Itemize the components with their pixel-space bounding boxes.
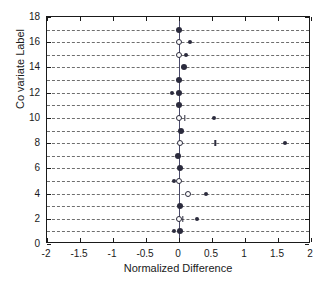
data-point-row7-filled	[175, 153, 181, 159]
y-tick-8	[305, 143, 309, 144]
y-tick-label-8: 8	[14, 137, 40, 148]
y-tick-label-10: 10	[14, 111, 40, 122]
data-point-row10-dot	[212, 116, 216, 120]
data-point-row13-filled	[176, 77, 182, 83]
y-tick-6	[47, 168, 51, 169]
data-point-row15-open	[176, 52, 182, 58]
x-tick-2	[311, 238, 312, 242]
data-point-row16-dot	[188, 40, 192, 44]
x-tick-label--1.5: -1.5	[70, 248, 87, 259]
data-point-row3-filled	[177, 203, 183, 209]
data-point-row11-filled	[176, 102, 182, 108]
x-tick-label-2: 2	[307, 248, 313, 259]
y-tick-16	[305, 42, 309, 43]
y-tick-label-2: 2	[14, 212, 40, 223]
x-tick--2	[47, 238, 48, 242]
y-tick-12	[305, 93, 309, 94]
data-point-row16-open	[176, 39, 182, 45]
x-tick-label--1: -1	[108, 248, 117, 259]
data-point-row9-filled	[178, 128, 184, 134]
y-tick-14	[47, 67, 51, 68]
data-point-row17-filled	[176, 27, 182, 33]
data-point-row6-filled	[177, 165, 183, 171]
x-tick--0.5	[146, 17, 147, 21]
y-tick-label-18: 18	[14, 11, 40, 22]
y-tick-0	[47, 244, 51, 245]
data-point-row1-filled	[177, 228, 183, 234]
data-point-row10-open	[176, 115, 182, 121]
x-tick-0	[179, 17, 180, 21]
y-tick-16	[47, 42, 51, 43]
y-tick-2	[305, 219, 309, 220]
x-tick-label--0.5: -0.5	[136, 248, 153, 259]
data-point-row2-tick	[182, 216, 183, 222]
y-tick-10	[47, 118, 51, 119]
y-tick-label-0: 0	[14, 238, 40, 249]
x-tick--0.5	[146, 238, 147, 242]
x-tick-label-1: 1	[241, 248, 247, 259]
data-point-row10-tick	[184, 115, 185, 121]
x-tick--1	[113, 238, 114, 242]
y-tick-4	[47, 194, 51, 195]
data-point-row12-filled	[176, 90, 182, 96]
y-tick-label-6: 6	[14, 162, 40, 173]
y-tick-18	[47, 17, 51, 18]
data-point-row4-dot	[204, 192, 208, 196]
x-tick-2	[311, 17, 312, 21]
y-tick-0	[305, 244, 309, 245]
plot-area	[46, 16, 310, 243]
data-point-row8-tick	[215, 140, 216, 146]
x-tick-1.5	[278, 238, 279, 242]
data-point-row2-dot	[195, 217, 199, 221]
y-tick-label-14: 14	[14, 61, 40, 72]
data-point-row2-open	[176, 216, 182, 222]
data-point-row5-dot	[172, 179, 176, 183]
x-tick-label--2: -2	[42, 248, 51, 259]
y-tick-label-16: 16	[14, 36, 40, 47]
x-tick-1	[245, 238, 246, 242]
y-tick-12	[47, 93, 51, 94]
data-point-row8-open	[177, 140, 183, 146]
y-tick-2	[47, 219, 51, 220]
data-point-row14-filled	[181, 64, 187, 70]
x-tick-0.5	[212, 238, 213, 242]
y-tick-label-4: 4	[14, 187, 40, 198]
x-tick--1.5	[80, 238, 81, 242]
x-tick--1	[113, 17, 114, 21]
y-tick-label-12: 12	[14, 86, 40, 97]
x-tick-0.5	[212, 17, 213, 21]
y-tick-14	[305, 67, 309, 68]
data-point-row5-open	[176, 178, 182, 184]
x-tick-label-0.5: 0.5	[204, 248, 218, 259]
data-point-row8-dot	[283, 141, 287, 145]
data-point-row12-dot	[170, 91, 174, 95]
x-tick-label-0: 0	[175, 248, 181, 259]
y-tick-4	[305, 194, 309, 195]
y-tick-8	[47, 143, 51, 144]
y-tick-10	[305, 118, 309, 119]
data-point-row4-open	[185, 191, 191, 197]
y-tick-18	[305, 17, 309, 18]
data-point-row15-dot	[184, 53, 188, 57]
x-tick-0	[179, 238, 180, 242]
x-axis-title: Normalized Difference	[46, 262, 310, 274]
data-point-row1-dot	[172, 229, 176, 233]
gridline-row-14	[47, 67, 309, 68]
x-tick-1	[245, 17, 246, 21]
x-tick-1.5	[278, 17, 279, 21]
x-tick--1.5	[80, 17, 81, 21]
chart-root: Normalized Difference Co variate Label -…	[0, 0, 336, 282]
x-tick-label-1.5: 1.5	[270, 248, 284, 259]
y-tick-6	[305, 168, 309, 169]
gridline-row-4	[47, 194, 309, 195]
